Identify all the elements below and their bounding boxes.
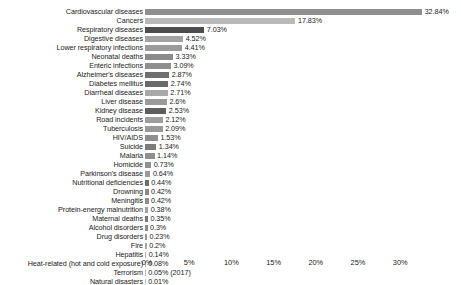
bar xyxy=(145,117,163,123)
bar-track: 0.2% xyxy=(145,241,461,250)
bar-track: 32.84% xyxy=(145,7,461,16)
bar-chart: Cardiovascular diseases32.84%Cancers17.8… xyxy=(0,0,461,285)
x-tick-label: 30% xyxy=(393,257,408,269)
value-label: 2.71% xyxy=(168,88,191,97)
value-label: 32.84% xyxy=(422,7,449,16)
category-label: Fire xyxy=(0,241,145,250)
x-tick-label: 5% xyxy=(184,257,195,269)
plot-area: Cardiovascular diseases32.84%Cancers17.8… xyxy=(0,7,461,285)
value-label: 3.33% xyxy=(173,52,196,61)
bar-row: Alzheimer's diseases2.87% xyxy=(0,70,461,79)
value-label: 4.41% xyxy=(182,43,205,52)
x-tick-label: 10% xyxy=(224,257,239,269)
bar-track: 0.23% xyxy=(145,232,461,241)
bar-row: Liver disease2.6% xyxy=(0,97,461,106)
bar-row: Cardiovascular diseases32.84% xyxy=(0,7,461,16)
value-label: 0.42% xyxy=(149,196,172,205)
bar-row: Suicide1.34% xyxy=(0,142,461,151)
bar-row: Homicide0.73% xyxy=(0,160,461,169)
bar-track: 4.52% xyxy=(145,34,461,43)
bar-row: Enteric infections3.09% xyxy=(0,61,461,70)
value-label: 1.34% xyxy=(156,142,179,151)
value-label: 2.53% xyxy=(166,106,189,115)
category-label: Natural disasters xyxy=(0,277,145,285)
value-label: 0.44% xyxy=(149,178,172,187)
bar xyxy=(145,45,182,51)
bar xyxy=(145,126,163,132)
bar-row: Maternal deaths0.35% xyxy=(0,214,461,223)
bar-row: Diabetes mellitus2.74% xyxy=(0,79,461,88)
category-label: Respiratory diseases xyxy=(0,25,145,34)
bar-track: 2.53% xyxy=(145,106,461,115)
category-label: Tuberculosis xyxy=(0,124,145,133)
value-label: 0.2% xyxy=(147,241,166,250)
bar xyxy=(145,72,169,78)
bar-track: 3.33% xyxy=(145,52,461,61)
bar-row: HIV/AIDS1.53% xyxy=(0,133,461,142)
category-label: HIV/AIDS xyxy=(0,133,145,142)
category-label: Liver disease xyxy=(0,97,145,106)
bar-row: Natural disasters0.01% xyxy=(0,277,461,285)
category-label: Road incidents xyxy=(0,115,145,124)
bar-track: 4.41% xyxy=(145,43,461,52)
value-label: 0.35% xyxy=(148,214,171,223)
value-label: 2.09% xyxy=(163,124,186,133)
bar-row: Road incidents2.12% xyxy=(0,115,461,124)
bar-track: 17.83% xyxy=(145,16,461,25)
value-label: 17.83% xyxy=(295,16,322,25)
bar xyxy=(145,108,166,114)
bar-track: 0.35% xyxy=(145,214,461,223)
category-label: Cancers xyxy=(0,16,145,25)
category-label: Parkinson's disease xyxy=(0,169,145,178)
category-label: Digestive diseases xyxy=(0,34,145,43)
bar-track: 0.3% xyxy=(145,223,461,232)
bar-track: 2.71% xyxy=(145,88,461,97)
bar xyxy=(145,153,155,159)
bar xyxy=(145,27,204,33)
value-label: 0.3% xyxy=(148,223,167,232)
value-label: 2.12% xyxy=(163,115,186,124)
value-label: 0.73% xyxy=(151,160,174,169)
category-label: Homicide xyxy=(0,160,145,169)
bar xyxy=(145,144,156,150)
bar xyxy=(145,81,168,87)
category-label: Alzheimer's diseases xyxy=(0,70,145,79)
x-tick-label: 0% xyxy=(142,257,153,269)
bar-row: Lower respiratory infections4.41% xyxy=(0,43,461,52)
value-label: 2.87% xyxy=(169,70,192,79)
bar-track: 1.34% xyxy=(145,142,461,151)
bar-track: 0.01% xyxy=(145,277,461,285)
category-label: Neonatal deaths xyxy=(0,52,145,61)
bar-track: 3.09% xyxy=(145,61,461,70)
bar xyxy=(145,135,158,141)
bar-row: Drowning0.42% xyxy=(0,187,461,196)
bar-track: 2.6% xyxy=(145,97,461,106)
bar-row: Alcohol disorders0.3% xyxy=(0,223,461,232)
bar-track: 0.38% xyxy=(145,205,461,214)
category-label: Lower respiratory infections xyxy=(0,43,145,52)
bar-row: Nutritional deficiencies0.44% xyxy=(0,178,461,187)
bar-row: Neonatal deaths3.33% xyxy=(0,52,461,61)
bar-track: 2.12% xyxy=(145,115,461,124)
x-tick-label: 25% xyxy=(351,257,366,269)
value-label: 4.52% xyxy=(183,34,206,43)
bar xyxy=(145,63,171,69)
value-label: 0.23% xyxy=(147,232,170,241)
bar-track: 1.14% xyxy=(145,151,461,160)
bar-track: 0.42% xyxy=(145,187,461,196)
bar-row: Meningitis0.42% xyxy=(0,196,461,205)
category-label: Suicide xyxy=(0,142,145,151)
value-label: 0.64% xyxy=(150,169,173,178)
category-label: Diarrheal diseases xyxy=(0,88,145,97)
bar-track: 2.74% xyxy=(145,79,461,88)
value-label: 0.38% xyxy=(148,205,171,214)
x-tick-label: 15% xyxy=(266,257,281,269)
x-axis: 0%5%10%15%20%25%30% xyxy=(0,257,461,273)
bar-track: 0.64% xyxy=(145,169,461,178)
category-label: Cardiovascular diseases xyxy=(0,7,145,16)
category-label: Diabetes mellitus xyxy=(0,79,145,88)
category-label: Kidney disease xyxy=(0,106,145,115)
bar-row: Digestive diseases4.52% xyxy=(0,34,461,43)
bar-track: 2.09% xyxy=(145,124,461,133)
category-label: Drug disorders xyxy=(0,232,145,241)
